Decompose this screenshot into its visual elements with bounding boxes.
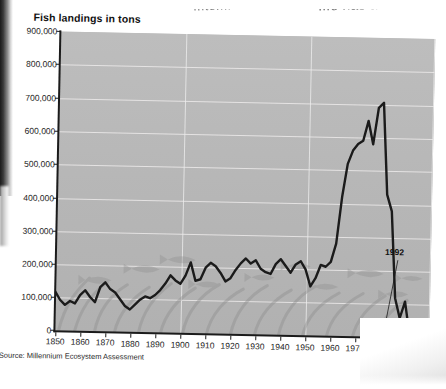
source-note: Source: Millennium Ecosystem Assessment (0, 351, 144, 362)
x-axis-tick-mark (130, 334, 131, 338)
x-axis-tick-mark (255, 336, 256, 340)
x-axis-tick-mark (230, 336, 231, 340)
x-axis-tick-label: 1900 (171, 340, 190, 350)
x-axis-tick-mark (355, 338, 356, 342)
fish-landings-figure: Fish landings in tons (0, 0, 446, 389)
x-axis-tick-mark (330, 338, 331, 342)
x-axis-tick-label: 1890 (146, 339, 165, 349)
x-axis-tick-label: 1860 (71, 337, 90, 347)
x-axis-tick-mark (305, 337, 306, 341)
x-axis-tick-mark (428, 340, 429, 344)
x-axis-tick-mark (105, 333, 106, 337)
annotation-1992-label: 1992 (385, 247, 404, 257)
x-axis-tick-mark (180, 335, 181, 339)
x-axis-tick-label: 1910 (196, 340, 215, 350)
x-axis-tick-mark (380, 339, 381, 343)
x-axis-tick-label: 1970 (346, 343, 365, 353)
x-axis-tick-label: 1990 (396, 344, 415, 354)
x-axis-tick-label: 1940 (271, 342, 290, 352)
x-axis-tick-mark (205, 335, 206, 339)
x-axis-tick-label: 1870 (96, 337, 115, 347)
x-axis-tick-mark (80, 333, 81, 337)
x-axis-tick-mark (280, 337, 281, 341)
x-axis-tick-label: 1960 (321, 343, 340, 353)
x-axis-tick-label: 2000 (419, 345, 438, 355)
x-axis-tick-label: 1850 (46, 336, 65, 346)
x-axis-tick-mark (55, 332, 56, 336)
x-axis-tick-label: 1920 (221, 341, 240, 351)
x-axis-tick-label: 1950 (296, 342, 315, 352)
x-axis-tick-label: 1980 (371, 344, 390, 354)
x-axis-tick-label: 1880 (121, 339, 140, 349)
x-axis-tick-mark (155, 334, 156, 338)
x-axis-tick-labels: 1850186018701880189019001910192019301940… (0, 0, 446, 389)
x-axis-tick-label: 1930 (246, 341, 265, 351)
x-axis-tick-mark (405, 339, 406, 343)
